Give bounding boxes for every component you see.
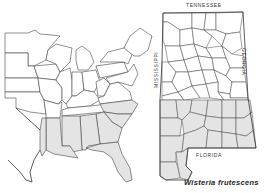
alabama-northern-counties	[162, 12, 248, 100]
alabama-southern-counties-shaded	[160, 100, 256, 180]
label-georgia: GEORGIA	[241, 48, 247, 76]
texas-coast-outline	[8, 108, 40, 182]
state-michigan	[76, 46, 94, 70]
state-texas-east	[40, 118, 46, 156]
figure-caption: Wisteria frutescens	[184, 178, 259, 187]
label-florida: FLORIDA	[196, 152, 222, 158]
range-map-figure: TENNESSEE GEORGIA MISSISSIPPI FLORIDA Wi…	[0, 0, 266, 193]
label-mississippi: MISSISSIPPI	[153, 52, 159, 88]
state-iowa	[34, 64, 60, 80]
us-map	[0, 0, 160, 193]
state-florida	[86, 142, 132, 182]
state-oklahoma-area	[5, 92, 46, 114]
state-kansas-area	[5, 78, 40, 92]
label-tennessee: TENNESSEE	[186, 2, 222, 8]
